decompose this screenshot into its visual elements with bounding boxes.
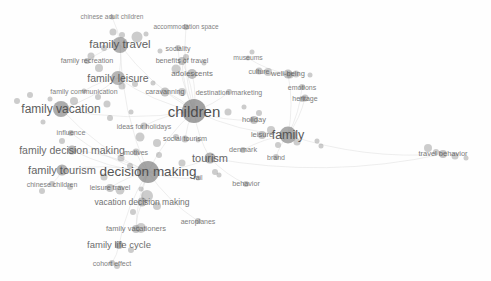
network-node[interactable] bbox=[115, 241, 123, 249]
network-node-minor[interactable] bbox=[59, 138, 65, 144]
network-node-minor[interactable] bbox=[158, 49, 163, 54]
network-node[interactable] bbox=[161, 88, 170, 97]
network-node-minor[interactable] bbox=[153, 202, 161, 210]
network-node[interactable] bbox=[226, 89, 232, 95]
network-node[interactable] bbox=[273, 154, 279, 160]
network-node-minor[interactable] bbox=[101, 174, 108, 181]
network-visualization-canvas: chinese adult childrenaccommodation spac… bbox=[0, 0, 491, 281]
network-node[interactable] bbox=[196, 176, 201, 181]
network-node-minor[interactable] bbox=[39, 188, 45, 194]
network-node-minor[interactable] bbox=[14, 98, 20, 104]
network-node-minor[interactable] bbox=[464, 156, 469, 161]
network-node[interactable] bbox=[106, 184, 114, 192]
network-edges-layer bbox=[0, 0, 491, 281]
network-node[interactable] bbox=[132, 225, 140, 233]
network-node[interactable] bbox=[49, 181, 55, 187]
network-node-minor[interactable] bbox=[136, 133, 145, 142]
network-node-minor[interactable] bbox=[110, 29, 117, 36]
network-node[interactable] bbox=[68, 130, 74, 136]
network-node-minor[interactable] bbox=[114, 263, 120, 269]
network-node-minor[interactable] bbox=[308, 73, 313, 78]
network-node-minor[interactable] bbox=[179, 160, 186, 167]
network-node-minor[interactable] bbox=[242, 105, 247, 110]
network-node-minor[interactable] bbox=[67, 184, 73, 190]
network-node-minor[interactable] bbox=[319, 144, 324, 149]
network-edge bbox=[61, 109, 148, 172]
network-node-minor[interactable] bbox=[127, 163, 133, 169]
network-node[interactable] bbox=[302, 95, 309, 102]
network-node[interactable] bbox=[53, 101, 69, 117]
network-node-minor[interactable] bbox=[151, 81, 156, 86]
network-node-minor[interactable] bbox=[107, 115, 113, 121]
network-node-minor[interactable] bbox=[196, 138, 201, 143]
network-node-minor[interactable] bbox=[130, 209, 136, 215]
network-node[interactable] bbox=[141, 123, 148, 130]
network-node-minor[interactable] bbox=[104, 101, 111, 108]
network-node-minor[interactable] bbox=[153, 139, 161, 147]
network-node-minor[interactable] bbox=[129, 110, 134, 115]
network-node-minor[interactable] bbox=[172, 65, 181, 74]
network-node[interactable] bbox=[243, 181, 249, 187]
network-node[interactable] bbox=[84, 58, 90, 64]
network-node-minor[interactable] bbox=[250, 50, 255, 55]
network-node[interactable] bbox=[250, 116, 258, 124]
network-node[interactable] bbox=[175, 45, 181, 51]
network-node-minor[interactable] bbox=[116, 186, 125, 195]
network-node[interactable] bbox=[109, 260, 115, 266]
network-node[interactable] bbox=[182, 99, 206, 123]
network-node-minor[interactable] bbox=[132, 32, 143, 43]
network-node[interactable] bbox=[187, 69, 197, 79]
network-node[interactable] bbox=[183, 24, 189, 30]
network-node-minor[interactable] bbox=[178, 88, 186, 96]
network-edge bbox=[210, 154, 443, 168]
network-node[interactable] bbox=[138, 198, 147, 207]
network-node[interactable] bbox=[258, 131, 266, 139]
network-node-minor[interactable] bbox=[217, 173, 222, 178]
network-node-minor[interactable] bbox=[424, 144, 432, 152]
network-node-minor[interactable] bbox=[315, 139, 320, 144]
network-edge bbox=[288, 135, 443, 155]
network-node[interactable] bbox=[256, 68, 263, 75]
network-node-minor[interactable] bbox=[27, 92, 33, 98]
network-node-minor[interactable] bbox=[264, 68, 272, 76]
network-node[interactable] bbox=[195, 218, 201, 224]
network-node[interactable] bbox=[284, 70, 293, 79]
network-node[interactable] bbox=[133, 149, 140, 156]
network-node-minor[interactable] bbox=[452, 153, 459, 160]
network-node[interactable] bbox=[299, 84, 305, 90]
network-node[interactable] bbox=[82, 89, 87, 94]
network-node[interactable] bbox=[205, 153, 216, 164]
network-node[interactable] bbox=[240, 147, 246, 153]
network-node-minor[interactable] bbox=[70, 97, 78, 105]
network-node[interactable] bbox=[57, 165, 68, 176]
network-node[interactable] bbox=[137, 161, 159, 183]
network-node[interactable] bbox=[110, 15, 115, 20]
network-node-minor[interactable] bbox=[256, 110, 262, 116]
network-node-minor[interactable] bbox=[132, 81, 138, 87]
network-node-minor[interactable] bbox=[41, 120, 46, 125]
network-node[interactable] bbox=[111, 71, 125, 85]
network-node-minor[interactable] bbox=[144, 32, 149, 37]
network-node-minor[interactable] bbox=[95, 94, 101, 100]
network-node[interactable] bbox=[182, 136, 189, 143]
network-node-minor[interactable] bbox=[267, 126, 275, 134]
network-node-minor[interactable] bbox=[293, 71, 300, 78]
network-node[interactable] bbox=[439, 150, 447, 158]
network-node-minor[interactable] bbox=[173, 134, 179, 140]
network-node-minor[interactable] bbox=[95, 64, 103, 72]
network-node[interactable] bbox=[280, 127, 297, 144]
network-node-minor[interactable] bbox=[101, 45, 107, 51]
network-node[interactable] bbox=[178, 57, 186, 65]
network-node-minor[interactable] bbox=[118, 155, 125, 162]
network-node-minor[interactable] bbox=[48, 97, 53, 102]
network-node-minor[interactable] bbox=[156, 152, 162, 158]
network-edge bbox=[62, 167, 148, 172]
network-node-minor[interactable] bbox=[275, 142, 281, 148]
network-node-minor[interactable] bbox=[225, 109, 232, 116]
network-node-minor[interactable] bbox=[128, 247, 134, 253]
network-node-minor[interactable] bbox=[202, 61, 207, 66]
network-node[interactable] bbox=[112, 37, 128, 53]
network-node[interactable] bbox=[246, 56, 251, 61]
network-node[interactable] bbox=[68, 146, 77, 155]
